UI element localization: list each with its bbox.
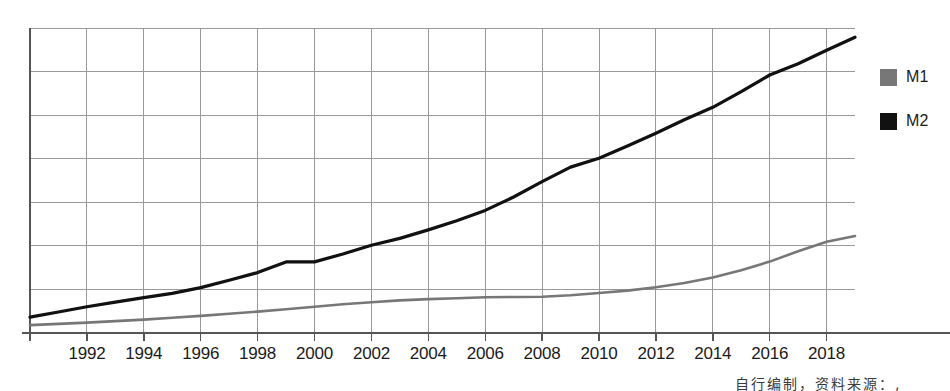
data-series-lines [30,37,855,325]
legend-item-m1[interactable]: M1 [880,55,950,99]
chart-axes [22,28,950,339]
legend-swatch-m1 [880,69,897,86]
line-chart-plot [0,0,950,391]
chart-figure: 1992199419961998200020022004200620082010… [0,0,950,391]
vertical-gridlines [30,28,827,333]
legend-swatch-m2 [880,113,897,130]
source-footnote: 自行编制，资料来源：, [735,376,950,391]
x-axis-ticks [30,333,827,341]
legend-item-m2[interactable]: M2 [880,99,950,143]
legend-label-m1: M1 [906,69,929,85]
legend-label-m2: M2 [906,113,929,129]
chart-legend: M1 M2 [880,55,950,143]
horizontal-gridlines [30,28,855,289]
